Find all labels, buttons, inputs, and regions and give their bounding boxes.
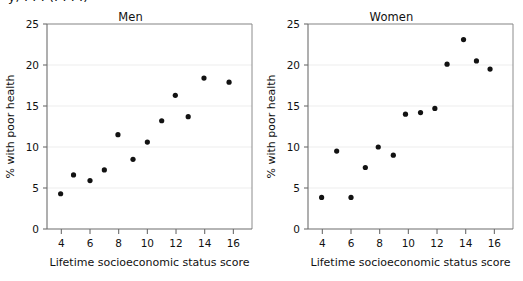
- data-point: [159, 118, 164, 123]
- x-tick-label-women: 6: [348, 237, 355, 249]
- y-tick-label-men: 0: [32, 223, 39, 235]
- data-point: [418, 110, 423, 115]
- x-tick-label-women: 8: [376, 237, 383, 249]
- x-tick-label-men: 4: [58, 237, 65, 249]
- y-tick-label-men: 25: [26, 18, 39, 30]
- data-point: [348, 195, 353, 200]
- x-tick-label-women: 10: [402, 237, 415, 249]
- y-tick-label-women: 20: [287, 59, 300, 71]
- data-point: [173, 93, 178, 98]
- x-tick-label-women: 12: [430, 237, 443, 249]
- data-point: [444, 62, 449, 67]
- y-tick-label-women: 15: [287, 100, 300, 112]
- scatter-plot-men: 051015202546810121416Lifetime socioecono…: [0, 8, 261, 281]
- data-point: [363, 165, 368, 170]
- y-tick-label-men: 20: [26, 59, 39, 71]
- y-tick-label-men: 10: [26, 141, 39, 153]
- data-point: [487, 67, 492, 72]
- data-point: [201, 76, 206, 81]
- data-point: [461, 37, 466, 42]
- y-tick-label-men: 5: [32, 182, 39, 194]
- y-tick-label-women: 5: [293, 182, 300, 194]
- x-tick-label-women: 14: [459, 237, 473, 249]
- data-point: [145, 139, 150, 144]
- data-point: [226, 80, 231, 85]
- data-point: [102, 167, 107, 172]
- data-point: [391, 153, 396, 158]
- x-tick-label-men: 10: [141, 237, 154, 249]
- data-point: [376, 144, 381, 149]
- data-point: [474, 58, 479, 63]
- x-tick-label-men: 8: [115, 237, 122, 249]
- data-point: [334, 149, 339, 154]
- y-tick-label-women: 25: [287, 18, 300, 30]
- y-tick-label-women: 0: [293, 223, 300, 235]
- x-tick-label-men: 6: [87, 237, 94, 249]
- x-tick-label-men: 12: [169, 237, 182, 249]
- y-tick-label-men: 15: [26, 100, 39, 112]
- data-point: [58, 191, 63, 196]
- x-tick-label-women: 4: [319, 237, 326, 249]
- data-point: [130, 157, 135, 162]
- data-point: [71, 172, 76, 177]
- data-point: [319, 195, 324, 200]
- data-point: [432, 106, 437, 111]
- y-axis-title-men: % with poor health: [4, 74, 17, 178]
- y-axis-title-women: % with poor health: [265, 74, 278, 178]
- cropped-caption-text: y, . . . (. . . .): [8, 0, 88, 4]
- x-axis-title-men: Lifetime socioeconomic status score: [50, 256, 250, 269]
- scatter-plot-women: 051015202546810121416Lifetime socioecono…: [261, 8, 522, 281]
- x-axis-title-women: Lifetime socioeconomic status score: [311, 256, 511, 269]
- figure-container: y, . . . (. . . .) Men 05101520254681012…: [0, 0, 523, 281]
- x-tick-label-men: 14: [198, 237, 212, 249]
- panels-row: Men 051015202546810121416Lifetime socioe…: [0, 8, 523, 281]
- data-point: [186, 114, 191, 119]
- data-point: [115, 132, 120, 137]
- data-point: [403, 112, 408, 117]
- x-tick-label-men: 16: [227, 237, 241, 249]
- panel-women: Women 051015202546810121416Lifetime soci…: [261, 8, 522, 281]
- x-tick-label-women: 16: [488, 237, 502, 249]
- y-tick-label-women: 10: [287, 141, 300, 153]
- data-point: [87, 178, 92, 183]
- panel-men: Men 051015202546810121416Lifetime socioe…: [0, 8, 261, 281]
